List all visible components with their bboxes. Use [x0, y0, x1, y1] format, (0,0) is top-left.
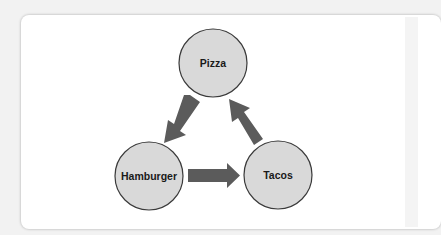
node-pizza: Pizza [179, 29, 247, 97]
node-label-pizza: Pizza [200, 57, 226, 69]
node-label-tacos: Tacos [263, 169, 293, 181]
node-label-hamburger: Hamburger [121, 170, 177, 182]
arrow-pizza-to-hamburger [164, 95, 200, 143]
arrow-tacos-to-pizza [229, 99, 263, 145]
node-tacos: Tacos [244, 141, 312, 209]
node-hamburger: Hamburger [115, 142, 183, 210]
arrow-hamburger-to-tacos [188, 163, 240, 188]
